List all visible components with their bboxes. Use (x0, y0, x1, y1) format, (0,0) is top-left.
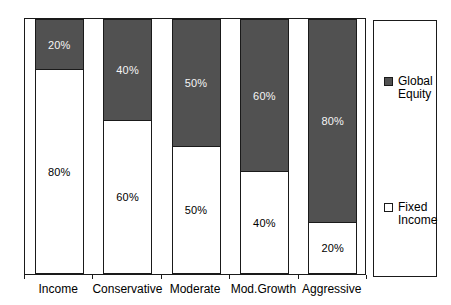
bar-segment-global-equity-aggressive: 80% (308, 19, 357, 223)
legend: Global Equity Fixed Income (373, 20, 437, 277)
x-axis-tick (161, 275, 162, 279)
category-label-aggressive: Aggressive (298, 282, 366, 297)
bar-income: 20%80% (35, 19, 84, 274)
fixed-income-legend-label: Fixed Income (398, 201, 437, 227)
category-label-conservative: Conservative (92, 282, 160, 297)
x-axis-tick (24, 275, 25, 279)
plot-area: 20%80%40%60%50%50%60%40%80%20% (24, 18, 366, 275)
bar-conservative: 40%60% (103, 19, 152, 274)
bar-segment-global-equity-income: 20% (35, 19, 84, 70)
stacked-bar-chart: 20%80%40%60%50%50%60%40%80%20% IncomeCon… (0, 0, 451, 305)
bar-segment-fixed-income-moderate: 50% (172, 146, 221, 275)
bar-mod-growth: 60%40% (240, 19, 289, 274)
global-equity-legend-label: Global Equity (398, 75, 434, 101)
x-axis-tick (92, 275, 93, 279)
bar-segment-fixed-income-aggressive: 20% (308, 222, 357, 274)
bar-moderate: 50%50% (172, 19, 221, 274)
x-axis-tick (366, 275, 367, 279)
category-label-moderate: Moderate (161, 282, 229, 297)
bar-segment-global-equity-mod-growth: 60% (240, 19, 289, 172)
category-label-income: Income (24, 282, 92, 297)
bar-segment-fixed-income-mod-growth: 40% (240, 171, 289, 274)
category-label-mod-growth: Mod.Growth (229, 282, 297, 297)
fixed-income-legend-marker (384, 203, 393, 212)
x-axis-category-labels: IncomeConservativeModerateMod.GrowthAggr… (0, 282, 451, 297)
bar-segment-global-equity-moderate: 50% (172, 19, 221, 147)
legend-entry-fixed-income: Fixed Income (384, 201, 434, 227)
bar-segment-fixed-income-income: 80% (35, 69, 84, 274)
bar-segment-fixed-income-conservative: 60% (103, 120, 152, 274)
x-axis-tick (229, 275, 230, 279)
bar-aggressive: 80%20% (308, 19, 357, 274)
legend-entry-global-equity: Global Equity (384, 75, 434, 101)
bar-segment-global-equity-conservative: 40% (103, 19, 152, 121)
global-equity-legend-marker (384, 77, 393, 86)
x-axis-tick (298, 275, 299, 279)
